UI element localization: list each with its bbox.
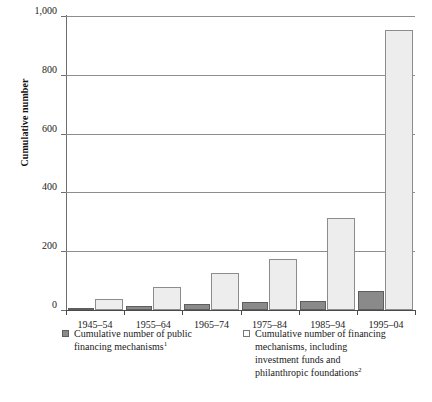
- x-tick-mark: [299, 310, 300, 315]
- legend-item-public-financing: Cumulative number of public financing me…: [62, 327, 242, 353]
- bar-public-financing: [68, 308, 94, 310]
- bar-public-financing: [126, 306, 152, 310]
- legend-item-all-financing: Cumulative number of financing mechanism…: [243, 327, 429, 379]
- bar-group: [299, 16, 357, 310]
- bar-group: [66, 16, 124, 310]
- y-tick-label: 400: [42, 186, 57, 187]
- y-tick-label: 800: [42, 69, 57, 70]
- chart-legend: Cumulative number of public financing me…: [0, 327, 432, 402]
- plot-area: 02004006008001,000 1945–541955–641965–74…: [66, 16, 415, 310]
- x-tick-mark: [66, 310, 67, 315]
- legend-label-line-3: investment funds and: [255, 354, 341, 365]
- x-tick-mark: [415, 310, 416, 315]
- bar-all-financing: [95, 299, 123, 310]
- legend-label-line-2: financing mechanisms: [74, 341, 164, 352]
- y-tick-label: 0: [52, 304, 57, 305]
- bar-group: [182, 16, 240, 310]
- legend-label-line-2: mechanisms, including: [255, 341, 347, 352]
- legend-label-line-4: philanthropic foundations: [255, 367, 358, 378]
- x-tick-mark: [357, 310, 358, 315]
- bar-all-financing: [211, 273, 239, 310]
- bar-all-financing: [269, 259, 297, 310]
- bar-group: [124, 16, 182, 310]
- y-tick-label: 200: [42, 245, 57, 246]
- y-axis-title: Cumulative number: [19, 53, 30, 193]
- legend-label-line-1: Cumulative number of financing: [255, 328, 386, 339]
- x-tick-mark: [124, 310, 125, 315]
- legend-swatch-light-icon: [243, 330, 250, 337]
- bar-public-financing: [358, 291, 384, 310]
- legend-label-all-financing: Cumulative number of financing mechanism…: [255, 327, 386, 379]
- bar-group: [241, 16, 299, 310]
- legend-label-line-1: Cumulative number of public: [74, 328, 192, 339]
- bar-all-financing: [385, 30, 413, 310]
- bar-all-financing: [327, 218, 355, 310]
- x-tick-mark: [182, 310, 183, 315]
- legend-footnote-marker: 1: [164, 340, 168, 348]
- legend-footnote-marker: 2: [358, 366, 362, 374]
- y-tick-label: 600: [42, 128, 57, 129]
- x-tick-mark: [241, 310, 242, 315]
- y-tick-label: 1,000: [35, 10, 58, 11]
- bar-public-financing: [242, 302, 268, 310]
- legend-swatch-dark-icon: [62, 330, 69, 337]
- bar-public-financing: [300, 301, 326, 310]
- bar-all-financing: [153, 287, 181, 310]
- bar-group: [357, 16, 415, 310]
- bar-public-financing: [184, 304, 210, 310]
- legend-label-public-financing: Cumulative number of public financing me…: [74, 327, 192, 353]
- bar-chart-figure: Cumulative number 02004006008001,000 194…: [0, 0, 432, 402]
